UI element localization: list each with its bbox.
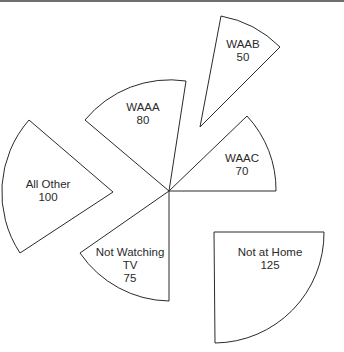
slice-waac [169, 116, 276, 191]
label-not-home-value: 125 [260, 259, 279, 271]
label-not-watching-line1: Not Watching [96, 246, 165, 258]
label-waab-name: WAAB [226, 38, 260, 50]
label-waab-value: 50 [237, 51, 250, 63]
label-waac-value: 70 [236, 165, 249, 177]
slice-waab [200, 16, 280, 127]
label-not-home-name: Not at Home [238, 246, 303, 258]
label-not-watching-value: 75 [124, 272, 137, 284]
label-waac-name: WAAC [225, 152, 259, 164]
slice-waaa [85, 80, 186, 191]
label-waaa-value: 80 [137, 114, 150, 126]
label-not-watching-line2: TV [123, 259, 138, 271]
label-all-other-value: 100 [38, 191, 57, 203]
label-all-other-name: All Other [26, 178, 71, 190]
label-waaa-name: WAAA [126, 101, 160, 113]
exploded-pie-chart: WAAB 50 WAAA 80 WAAC 70 All Other 100 No… [0, 0, 344, 352]
